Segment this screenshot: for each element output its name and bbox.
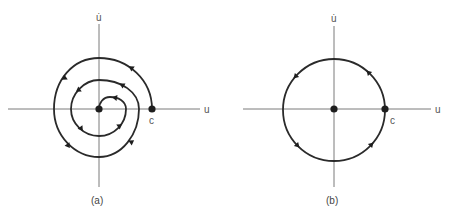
panel-a: u u̇ c (a) bbox=[8, 12, 210, 206]
phase-portrait-figure: u u̇ c (a) u u̇ bbox=[0, 0, 449, 214]
panel-a-origin-point bbox=[95, 105, 102, 112]
panel-a-c-label: c bbox=[149, 115, 154, 126]
panel-b-caption: (b) bbox=[326, 195, 338, 206]
panel-a-udot-label: u̇ bbox=[96, 12, 102, 23]
panel-b-point-c bbox=[381, 105, 388, 112]
panel-b-udot-label: u̇ bbox=[331, 13, 337, 24]
panel-b-origin-point bbox=[330, 105, 337, 112]
panel-b: u u̇ c (b) bbox=[243, 13, 441, 206]
panel-a-u-label: u bbox=[204, 104, 210, 115]
panel-b-c-label: c bbox=[390, 115, 395, 126]
panel-a-spiral-trajectory bbox=[54, 58, 152, 157]
panel-a-caption: (a) bbox=[91, 195, 103, 206]
panel-b-u-label: u bbox=[435, 104, 441, 115]
panel-a-point-c bbox=[148, 105, 155, 112]
arrow-icon bbox=[118, 81, 125, 89]
